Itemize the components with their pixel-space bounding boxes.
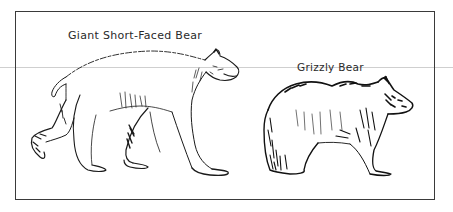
short-faced-bear-drawing [31, 49, 238, 175]
grizzly-bear-label: Grizzly Bear [297, 61, 364, 73]
grizzly-bear-drawing [264, 76, 413, 176]
short-faced-bear-label: Giant Short-Faced Bear [68, 29, 202, 42]
